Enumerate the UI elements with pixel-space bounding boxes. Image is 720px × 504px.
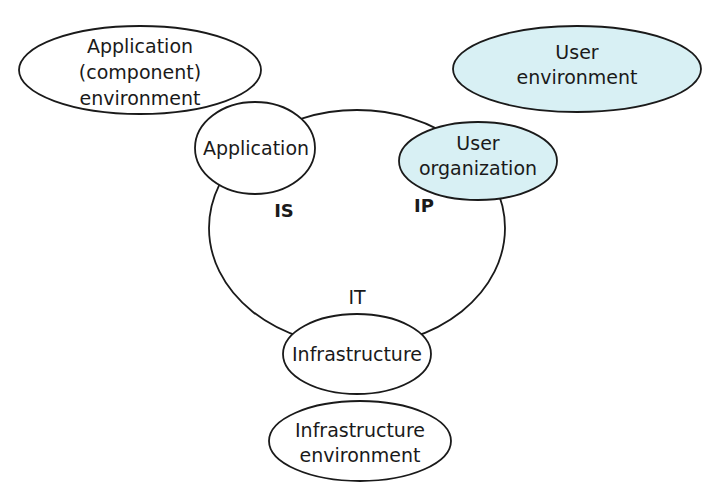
application-env-line-1: Application xyxy=(87,35,193,57)
user-org-line-2: organization xyxy=(419,157,537,179)
node-infrastructure-environment: Infrastructure environment xyxy=(269,401,451,481)
label-is: IS xyxy=(274,200,294,221)
node-application-environment: Application (component) environment xyxy=(19,26,261,114)
node-application: Application xyxy=(195,102,315,194)
application-env-line-3: environment xyxy=(79,87,200,109)
infrastructure-label: Infrastructure xyxy=(292,343,422,365)
application-env-line-2: (component) xyxy=(79,61,201,83)
user-env-line-1: User xyxy=(555,41,598,63)
label-ip: IP xyxy=(414,195,434,216)
infrastructure-env-line-2: environment xyxy=(299,444,420,466)
infrastructure-env-line-1: Infrastructure xyxy=(295,419,425,441)
node-infrastructure: Infrastructure xyxy=(283,314,431,394)
diagram-canvas: Application (component) environment User… xyxy=(0,0,720,504)
user-env-line-2: environment xyxy=(516,66,637,88)
node-user-environment: User environment xyxy=(453,26,701,112)
label-it: IT xyxy=(348,286,366,308)
node-user-organization: User organization xyxy=(399,122,557,200)
application-label: Application xyxy=(203,137,309,159)
user-org-line-1: User xyxy=(456,132,499,154)
